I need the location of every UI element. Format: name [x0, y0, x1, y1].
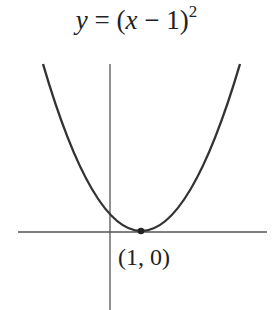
vertex-label: (1, 0)	[118, 244, 170, 271]
vertex-point	[138, 228, 145, 235]
parabola-curve	[43, 64, 240, 231]
